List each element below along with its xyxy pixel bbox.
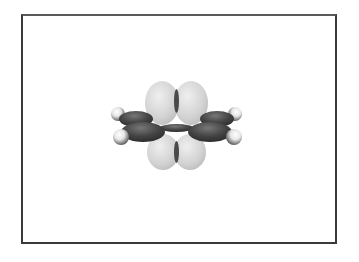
sigma-lobes <box>119 111 234 142</box>
hydrogen-atom-lower-left <box>113 129 129 145</box>
pi-lobes-upper <box>145 81 208 125</box>
ethylene-pi-orbital-figure <box>0 0 359 262</box>
hydrogen-atom-lower-right <box>226 129 242 145</box>
